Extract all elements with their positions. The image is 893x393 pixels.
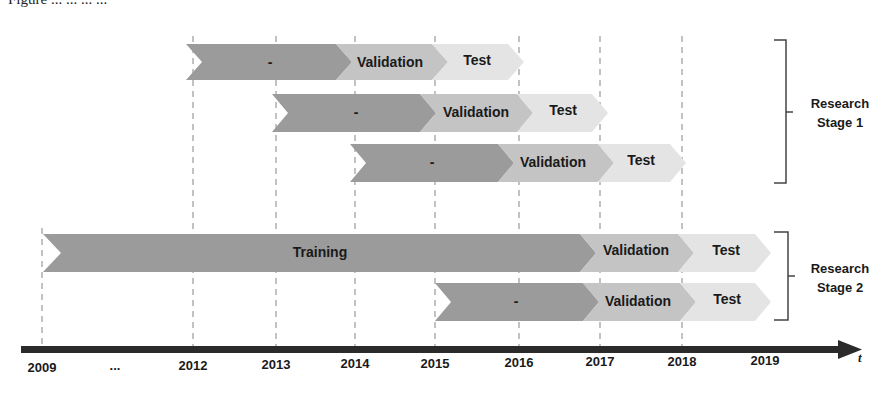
stage2-row1: Training Validation Test — [43, 234, 771, 272]
tick-2015: 2015 — [421, 356, 450, 371]
stage1-row1: - Validation Test — [186, 44, 524, 80]
validation-label: Validation — [357, 54, 423, 70]
tick-2018: 2018 — [668, 354, 697, 369]
test-label: Test — [627, 152, 655, 168]
stage1-bracket — [774, 40, 793, 183]
axis-variable-label: t — [858, 350, 862, 366]
stage2-label-line1: Research — [800, 259, 880, 278]
axis-tick-labels: 2009 ... 2012 2013 2014 2015 2016 2017 2… — [28, 353, 780, 375]
stage2-label-line2: Stage 2 — [800, 278, 880, 297]
tick-2017: 2017 — [586, 354, 615, 369]
stage1-label: Research Stage 1 — [800, 94, 880, 132]
stage1-row2: - Validation Test — [272, 94, 608, 132]
tick-2009: 2009 — [28, 360, 57, 375]
tick-2013: 2013 — [262, 357, 291, 372]
validation-label: Validation — [443, 104, 509, 120]
test-label: Test — [463, 52, 491, 68]
stage2-bracket — [774, 232, 795, 320]
tick-2019: 2019 — [751, 353, 780, 368]
tick-ellipsis: ... — [110, 358, 121, 373]
training-label: - — [354, 104, 359, 120]
test-label: Test — [549, 102, 577, 118]
training-label: - — [430, 154, 435, 170]
stage2-row2: - Validation Test — [435, 283, 771, 321]
validation-label: Validation — [605, 293, 671, 309]
tick-2012: 2012 — [179, 358, 208, 373]
stage1-row3: - Validation Test — [350, 144, 686, 182]
timeline-diagram: - Validation Test - Validation Test - Va… — [0, 0, 893, 393]
stage1-label-line1: Research — [800, 94, 880, 113]
stage1-label-line2: Stage 1 — [800, 113, 880, 132]
axis-line — [21, 346, 841, 353]
training-label: - — [268, 54, 273, 70]
training-label: Training — [293, 244, 347, 260]
test-label: Test — [712, 242, 740, 258]
validation-label: Validation — [520, 154, 586, 170]
stage2-label: Research Stage 2 — [800, 259, 880, 297]
training-label: - — [514, 293, 519, 309]
tick-2016: 2016 — [505, 355, 534, 370]
tick-2014: 2014 — [341, 356, 371, 371]
test-label: Test — [713, 291, 741, 307]
validation-label: Validation — [603, 242, 669, 258]
